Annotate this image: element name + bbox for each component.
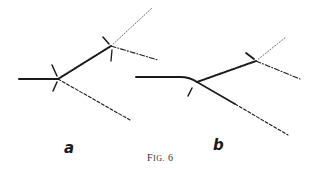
- panel-a-dash-dot-branch: [111, 46, 158, 60]
- panel-b-curved-solid-line: [136, 77, 197, 82]
- panel-b-dash-dot-branch: [256, 61, 300, 79]
- panel-b-node2-arrow: [246, 53, 254, 59]
- panel-a: [19, 8, 158, 120]
- panel-b: [136, 37, 300, 135]
- panel-b-lower-dashed-branch: [235, 104, 288, 135]
- panel-a-node1-tick-upper: [52, 65, 57, 76]
- caption-smallcaps: IG.: [153, 154, 165, 163]
- panel-a-fine-dotted-branch: [111, 8, 152, 46]
- panel-a-node2-arrow-left: [103, 37, 109, 44]
- panel-a-thick-dotted-segment: [58, 46, 111, 79]
- panel-a-label: a: [64, 139, 74, 157]
- panel-a-dashed-branch: [58, 79, 130, 120]
- panel-b-thick-dotted-segment: [197, 61, 256, 82]
- panel-b-fine-dotted-branch: [256, 37, 286, 61]
- panel-b-lower-solid-branch: [197, 82, 235, 104]
- figure-6-diagram: [0, 0, 317, 171]
- panel-b-label: b: [213, 136, 224, 154]
- panel-a-node2-arrow-below: [111, 50, 112, 61]
- caption-number: 6: [168, 152, 174, 163]
- panel-b-node1-tick: [188, 88, 192, 96]
- panel-a-node1-tick-lower: [53, 82, 57, 91]
- figure-caption: FIG. 6: [147, 152, 174, 163]
